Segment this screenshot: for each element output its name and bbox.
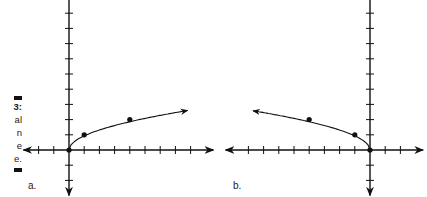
data-point: [352, 132, 357, 137]
data-point: [367, 147, 372, 152]
panel-label-a: a.: [28, 180, 36, 191]
data-point: [82, 132, 87, 137]
panel-label-b: b.: [233, 180, 241, 191]
sqrt-curve: [253, 111, 370, 150]
sqrt-graphs: [0, 0, 427, 197]
sqrt-curve: [69, 111, 188, 151]
data-point: [307, 117, 312, 122]
data-point: [127, 117, 132, 122]
data-point: [66, 147, 71, 152]
